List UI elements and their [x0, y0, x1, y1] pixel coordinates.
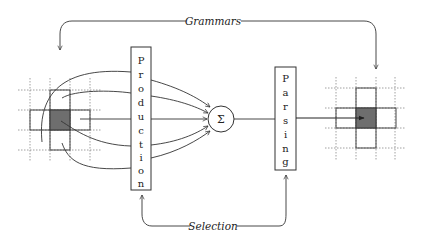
sigma-symbol: Σ [217, 113, 225, 126]
selection-label: Selection [188, 220, 238, 232]
production-letter: t [139, 139, 143, 150]
parsing-letter: i [284, 129, 287, 140]
parsing-letter: P [282, 73, 289, 84]
production-letter: u [138, 111, 145, 122]
parsing-letter: r [283, 101, 288, 112]
input-grid-center-cell [50, 110, 70, 130]
production-letter: i [139, 152, 142, 163]
production-letter: P [138, 55, 145, 66]
parsing-letter: a [283, 87, 289, 98]
sum-node: Σ [208, 106, 234, 132]
grammars-arrow [60, 21, 376, 69]
production-letter: o [138, 165, 144, 176]
grammars-label: Grammars [185, 15, 242, 27]
selection-arrow [142, 175, 286, 226]
production-letter: o [138, 83, 144, 94]
parsing-letter: s [283, 115, 288, 126]
production-letter: n [138, 178, 145, 189]
parsing-letter: n [282, 143, 289, 154]
production-letter: d [138, 97, 145, 108]
production-box: P r o d u c t i o n [131, 47, 151, 190]
parsing-box: P a r s i n g [275, 67, 296, 170]
production-letter: r [139, 69, 144, 80]
production-to-sum-arrows [151, 80, 210, 158]
parsing-letter: g [282, 156, 289, 167]
input-grid [18, 78, 102, 162]
grammar-production-parsing-diagram: P r o d u c t i o n Σ P a r s i n g [0, 0, 424, 243]
production-letter: c [138, 125, 144, 136]
